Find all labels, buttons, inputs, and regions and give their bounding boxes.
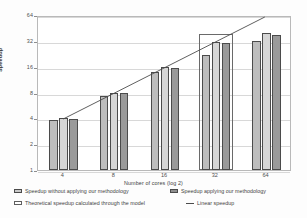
legend-item-linear-speedup[interactable]: Linear speedup [186, 200, 234, 206]
legend-row-2: Theoretical speedup calculated through t… [0, 200, 307, 212]
legend-label: Speedup without applying our methodology [25, 188, 129, 194]
y-tick-label: 1 [11, 168, 33, 173]
x-tick-label: 8 [93, 173, 133, 179]
legend-row-1: Speedup without applying our methodology… [0, 188, 307, 200]
legend-line-icon [186, 201, 194, 205]
y-tick-mark [34, 171, 37, 172]
x-tick-label: 32 [195, 173, 235, 179]
legend-label: Theoretical speedup calculated through t… [25, 200, 145, 206]
y-tick-label: 8 [11, 91, 33, 96]
plot-area [37, 16, 291, 171]
x-tick-label: 16 [144, 173, 184, 179]
legend-swatch-icon [14, 201, 22, 205]
x-tick-label: 4 [42, 173, 82, 179]
y-tick-label: 4 [11, 116, 33, 121]
y-tick-label: 16 [11, 65, 33, 70]
y-tick-label: 32 [11, 39, 33, 44]
chart-container: 1248163264 Speedup 48163264 Number of co… [0, 0, 307, 218]
x-axis-label: Number of cores (log 2) [0, 181, 307, 186]
legend-item-without-methodology[interactable]: Speedup without applying our methodology [14, 188, 129, 194]
legend-swatch-icon [14, 189, 22, 193]
legend-label: Linear speedup [197, 200, 234, 206]
y-tick-label: 2 [11, 142, 33, 147]
y-tick-mark [34, 94, 37, 95]
y-tick-mark [34, 145, 37, 146]
linear-speedup-line [38, 17, 290, 170]
y-tick-label: 64 [11, 13, 33, 18]
y-tick-mark [34, 42, 37, 43]
legend-swatch-icon [170, 189, 178, 193]
y-tick-mark [34, 119, 37, 120]
y-tick-mark [34, 68, 37, 69]
x-tick-label: 64 [246, 173, 286, 179]
legend-item-applying-methodology[interactable]: Speedup applying our methodology [170, 188, 266, 194]
linear-speedup-path [63, 17, 265, 119]
chart-legend: Speedup without applying our methodology… [0, 188, 307, 212]
y-axis-label: Speedup [0, 12, 3, 72]
legend-item-theoretical-speedup[interactable]: Theoretical speedup calculated through t… [14, 200, 145, 206]
legend-label: Speedup applying our methodology [181, 188, 266, 194]
y-tick-mark [34, 16, 37, 17]
